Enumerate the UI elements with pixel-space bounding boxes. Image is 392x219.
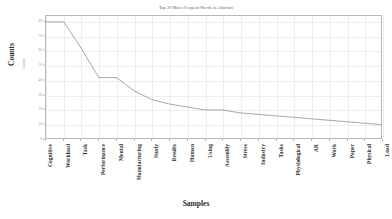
x-axis-tick-label: Paper	[349, 144, 355, 158]
x-axis-tick-label: Physical	[366, 144, 372, 164]
x-axis-tick-label: Work	[331, 144, 337, 158]
x-axis-tick-label: Industry	[260, 144, 266, 165]
chart-figure: Top 20 Most Frequent Words in Abstract C…	[0, 0, 392, 219]
x-axis-tick-mark	[187, 139, 188, 141]
y-axis-tick-label: 0	[40, 137, 42, 141]
y-axis-tick-label: 20	[39, 107, 42, 111]
x-axis-tick-mark	[80, 139, 81, 141]
y-axis-tick-label: 50	[39, 63, 42, 67]
x-axis-tick-label: Study	[153, 144, 159, 158]
x-axis-tick-label: Stress	[242, 144, 248, 158]
x-axis-tick-label: Manufacturing	[136, 144, 142, 180]
x-axis-label: Samples	[0, 199, 392, 208]
y-axis-tick-mark	[43, 124, 45, 125]
x-axis-tick-mark	[382, 139, 383, 141]
y-axis-tick-mark	[43, 65, 45, 66]
chart-title: Top 20 Most Frequent Words in Abstract	[0, 5, 392, 10]
x-axis-tick-mark	[45, 139, 46, 141]
y-axis-tick-label: 60	[39, 48, 42, 52]
x-axis-tick-label: Mental	[118, 144, 124, 161]
x-axis-tick-mark	[98, 139, 99, 141]
gridline-vertical	[383, 16, 384, 138]
x-axis-tick-label: Assembly	[224, 144, 230, 167]
y-axis-tick-label: 10	[39, 122, 42, 126]
x-axis-tick-mark	[240, 139, 241, 141]
x-axis-ticks: CognitiveWorkloadTaskPerformanceMentalMa…	[45, 139, 382, 197]
y-axis-tick-mark	[43, 109, 45, 110]
x-axis-tick-label: Performance	[100, 144, 106, 175]
y-axis-tick-label: 70	[39, 34, 42, 38]
y-axis-tick-label: 30	[39, 93, 42, 97]
x-axis-tick-label: Task	[82, 144, 88, 155]
x-axis-tick-label: Cognitive	[47, 144, 53, 167]
x-axis-tick-mark	[364, 139, 365, 141]
data-series-line	[46, 16, 381, 139]
y-axis-ticks: 01020304050607080	[0, 15, 45, 139]
x-axis-tick-mark	[116, 139, 117, 141]
x-axis-tick-label: Load	[384, 144, 390, 156]
y-axis-tick-mark	[43, 20, 45, 21]
x-axis-tick-mark	[347, 139, 348, 141]
plot-area	[45, 15, 382, 139]
x-axis-tick-mark	[293, 139, 294, 141]
x-axis-tick-label: Workload	[65, 144, 71, 168]
y-axis-tick-label: 80	[39, 19, 42, 23]
x-axis-tick-mark	[151, 139, 152, 141]
y-axis-tick-mark	[43, 50, 45, 51]
x-axis-tick-label: Results	[171, 144, 177, 161]
x-axis-tick-mark	[169, 139, 170, 141]
x-axis-tick-mark	[329, 139, 330, 141]
x-axis-tick-mark	[63, 139, 64, 141]
y-axis-tick-mark	[43, 94, 45, 95]
x-axis-tick-label: Tasks	[278, 144, 284, 158]
x-axis-tick-label: Physiological	[295, 144, 301, 176]
x-axis-tick-mark	[258, 139, 259, 141]
x-axis-tick-label: Human	[189, 144, 195, 162]
x-axis-tick-mark	[134, 139, 135, 141]
x-axis-tick-mark	[276, 139, 277, 141]
x-axis-tick-label: AR	[313, 144, 319, 152]
y-axis-tick-mark	[43, 79, 45, 80]
y-axis-tick-mark	[43, 35, 45, 36]
x-axis-tick-mark	[205, 139, 206, 141]
x-axis-tick-mark	[222, 139, 223, 141]
y-axis-tick-label: 40	[39, 78, 42, 82]
x-axis-tick-mark	[311, 139, 312, 141]
x-axis-tick-label: Using	[207, 144, 213, 158]
